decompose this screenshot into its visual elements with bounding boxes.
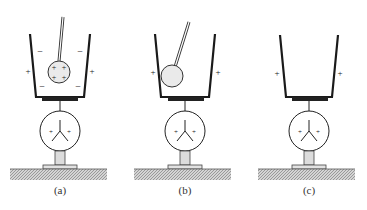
svg-text:−: −	[39, 81, 45, 92]
svg-text:+: +	[25, 66, 30, 76]
svg-text:+: +	[298, 128, 302, 136]
svg-text:+: +	[337, 68, 342, 78]
svg-text:+: +	[316, 128, 320, 136]
svg-text:+: +	[215, 67, 220, 77]
svg-text:−: −	[37, 46, 43, 57]
svg-text:+: +	[174, 128, 178, 136]
svg-text:−: −	[77, 46, 83, 57]
panel-a-label: (a)	[40, 184, 80, 196]
svg-text:+: +	[192, 128, 196, 136]
svg-text:+: +	[150, 67, 155, 77]
svg-text:+: +	[49, 128, 53, 136]
svg-text:+: +	[274, 68, 279, 78]
svg-text:+: +	[52, 63, 57, 72]
electroscope: + +	[40, 101, 80, 169]
metal-cup	[155, 34, 215, 101]
ground	[10, 169, 107, 180]
ground	[258, 169, 355, 180]
svg-text:+: +	[89, 66, 94, 76]
insulating-rod	[59, 17, 63, 61]
svg-text:+: +	[62, 73, 67, 82]
electroscope: + +	[165, 101, 205, 169]
insulating-rod	[175, 22, 189, 67]
svg-text:+: +	[62, 63, 67, 72]
svg-text:−: −	[75, 81, 81, 92]
svg-text:+: +	[52, 73, 57, 82]
metal-cup	[280, 35, 338, 101]
ground	[134, 169, 231, 180]
panel-c: + + + +	[258, 35, 355, 180]
svg-text:+: +	[67, 128, 71, 136]
panel-b: + + + +	[134, 22, 231, 180]
discharged-ball	[161, 65, 183, 87]
panel-c-label: (c)	[289, 184, 329, 196]
figure-canvas: + + + + − − − − + + + +	[0, 0, 367, 210]
panel-b-label: (b)	[165, 184, 205, 196]
panel-a: + + + + − − − − + + + +	[10, 17, 107, 180]
electroscope: + +	[289, 101, 329, 169]
charged-ball: + + + +	[48, 61, 70, 83]
